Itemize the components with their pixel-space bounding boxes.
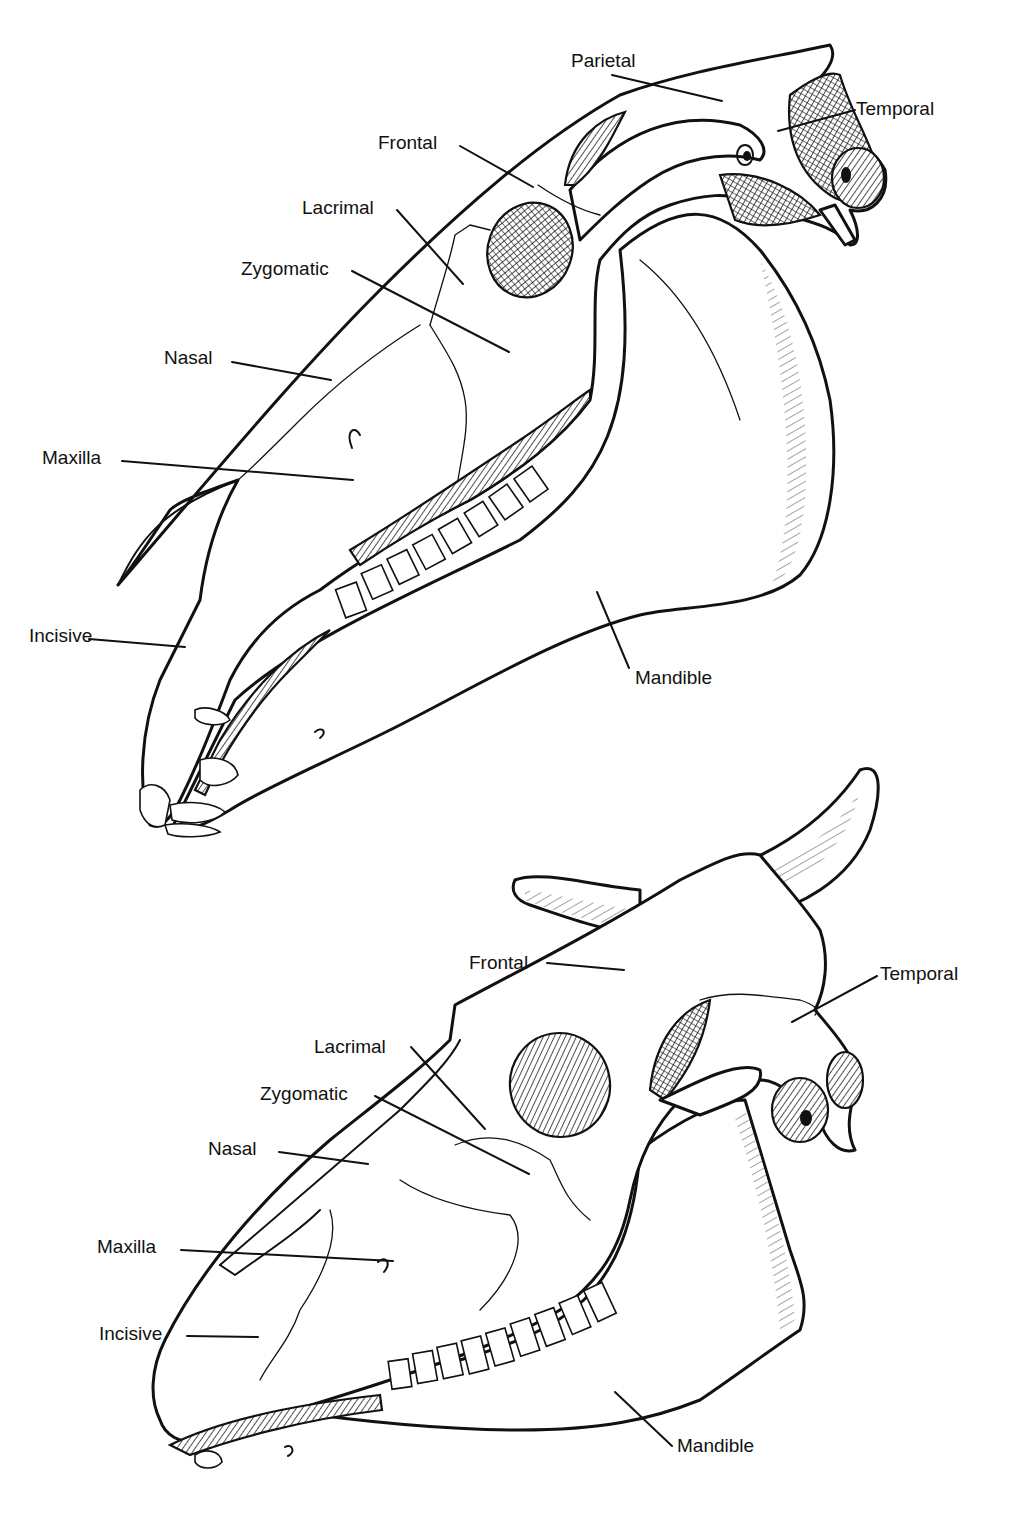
label-ox-mandible: Mandible	[677, 1436, 754, 1455]
horse-skull	[118, 45, 886, 837]
label-ox-temporal: Temporal	[880, 964, 958, 983]
label-horse-mandible: Mandible	[635, 668, 712, 687]
leader-line-ox-incisive	[187, 1336, 258, 1337]
anatomy-figure: Parietal Temporal Frontal Lacrimal Zygom…	[0, 0, 1018, 1525]
label-horse-frontal: Frontal	[378, 133, 437, 152]
label-ox-incisive: Incisive	[99, 1324, 162, 1343]
label-ox-maxilla: Maxilla	[97, 1237, 156, 1256]
label-ox-lacrimal: Lacrimal	[314, 1037, 386, 1056]
label-ox-zygomatic: Zygomatic	[260, 1084, 348, 1103]
skull-illustrations	[0, 0, 1018, 1525]
label-horse-zygomatic: Zygomatic	[241, 259, 329, 278]
label-horse-incisive: Incisive	[29, 626, 92, 645]
label-horse-nasal: Nasal	[164, 348, 213, 367]
label-horse-lacrimal: Lacrimal	[302, 198, 374, 217]
label-horse-temporal: Temporal	[856, 99, 934, 118]
label-horse-maxilla: Maxilla	[42, 448, 101, 467]
leader-line-horse-incisive	[89, 639, 185, 647]
label-horse-parietal: Parietal	[571, 51, 635, 70]
ox-skull	[153, 768, 878, 1468]
label-ox-nasal: Nasal	[208, 1139, 257, 1158]
label-ox-frontal: Frontal	[469, 953, 528, 972]
